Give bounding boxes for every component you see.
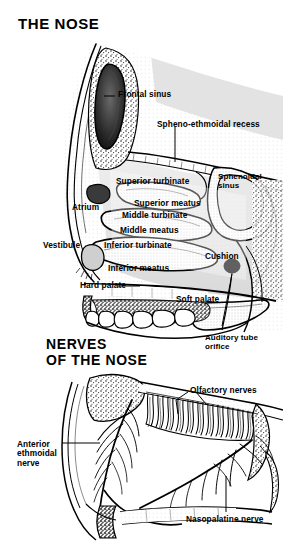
nasopalatine-nerve-branches	[140, 440, 262, 512]
label-inferior-turbinate: Inferior turbinate	[104, 241, 172, 250]
anatomy-figure: THE NOSE Frontal sinus Spheno-ethmoidal …	[0, 0, 283, 542]
label-cushion: Cushion	[205, 252, 239, 261]
label-anterior-ethmoidal-nerve: Anterior ethmoidal nerve	[17, 440, 57, 468]
label-auditory-tube-orifice: Auditory tube orifice	[205, 333, 258, 351]
label-sphenoidal-sinus: Sphenoidal sinus	[218, 172, 262, 190]
label-atrium: Atrium	[72, 203, 99, 212]
label-frontal-sinus: Frontal sinus	[118, 90, 171, 99]
label-hard-palate: Hard palate	[80, 281, 126, 290]
label-superior-turbinate: Superior turbinate	[116, 177, 189, 186]
label-middle-turbinate: Middle turbinate	[122, 211, 187, 220]
page-title-nerves-of-the-nose: NERVES OF THE NOSE	[46, 337, 148, 368]
label-superior-meatus: Superior meatus	[134, 199, 201, 208]
leader-lines-nerves	[62, 392, 226, 512]
label-middle-meatus: Middle meatus	[120, 226, 179, 235]
page-title-the-nose: THE NOSE	[18, 16, 99, 33]
label-nasopalatine-nerve: Nasopalatine nerve	[186, 515, 264, 524]
label-inferior-meatus: Inferior meatus	[108, 264, 169, 273]
label-olfactory-nerves: Olfactory nerves	[190, 386, 257, 395]
label-vestibule: Vestibule	[43, 241, 80, 250]
label-spheno-ethmoidal-recess: Spheno-ethmoidal recess	[157, 120, 260, 129]
label-soft-palate: Soft palate	[176, 295, 219, 304]
